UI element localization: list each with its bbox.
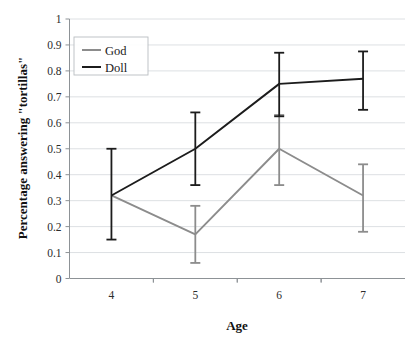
chart-background — [0, 0, 419, 341]
y-tick-label: 0.9 — [47, 39, 62, 51]
y-tick-label: 0.8 — [47, 65, 62, 77]
x-tick-label: 5 — [192, 289, 198, 301]
x-tick-label: 7 — [360, 289, 366, 301]
y-tick-label: 0.6 — [47, 117, 62, 129]
legend-label-doll[interactable]: Doll — [105, 61, 128, 75]
x-axis-title: Age — [226, 318, 248, 333]
y-tick-label: 1 — [56, 13, 62, 25]
line-chart: 00.10.20.30.40.50.60.70.80.91 4567 Perce… — [0, 0, 419, 341]
y-tick-label: 0.3 — [47, 195, 62, 207]
x-tick-label: 6 — [276, 289, 282, 301]
y-tick-label: 0.2 — [47, 221, 62, 233]
chart-figure: 00.10.20.30.40.50.60.70.80.91 4567 Perce… — [0, 0, 419, 341]
chart-legend[interactable]: GodDoll — [74, 37, 148, 75]
y-axis-title: Percentage answering "tortillas" — [15, 57, 30, 239]
y-tick-label: 0.5 — [47, 143, 62, 155]
y-tick-label: 0.7 — [47, 91, 62, 103]
x-tick-label: 4 — [109, 289, 115, 301]
y-tick-label: 0.4 — [47, 169, 62, 181]
y-tick-label: 0 — [56, 273, 62, 285]
legend-label-god[interactable]: God — [105, 44, 127, 58]
y-tick-label: 0.1 — [47, 247, 62, 259]
